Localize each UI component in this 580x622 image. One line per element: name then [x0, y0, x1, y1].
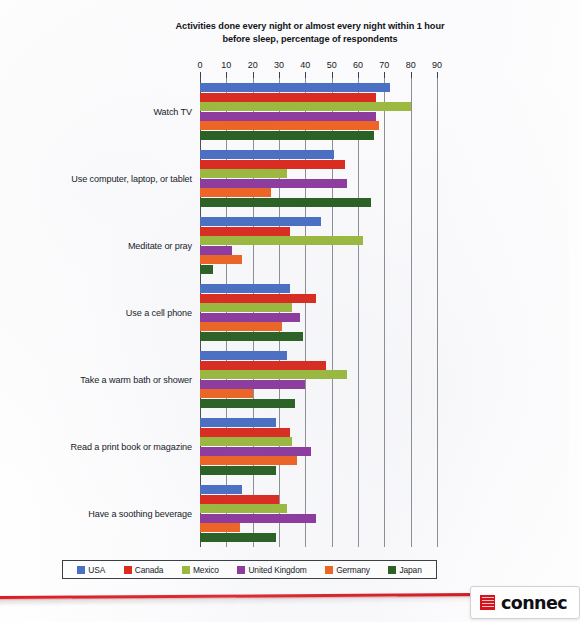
gridline-40 [305, 78, 306, 547]
bar [200, 313, 300, 322]
gridline-50 [332, 78, 333, 547]
gridline-80 [411, 78, 412, 547]
legend-swatch-icon [124, 566, 132, 574]
legend-item-japan[interactable]: Japan [388, 565, 421, 575]
bar [200, 255, 242, 264]
bar [200, 466, 276, 475]
bar [200, 332, 303, 341]
bar [200, 389, 253, 398]
x-tick-label-30: 30 [274, 60, 284, 70]
bar [200, 303, 292, 312]
x-tick-label-90: 90 [432, 60, 442, 70]
category-axis-labels: Watch TVUse computer, laptop, or tabletM… [10, 78, 200, 547]
bar [200, 523, 240, 532]
connect-logo-card[interactable]: connec [470, 586, 580, 619]
bar [200, 428, 290, 437]
chart-container: 0102030405060708090 Watch TVUse computer… [0, 0, 569, 560]
legend-label: Germany [336, 565, 370, 575]
logo-mark-lines [482, 597, 494, 609]
bar [200, 533, 276, 542]
legend-item-canada[interactable]: Canada [124, 565, 164, 575]
bar [200, 495, 279, 504]
legend-item-usa[interactable]: USA [77, 565, 105, 575]
legend-swatch-icon [182, 566, 190, 574]
bar [200, 169, 287, 178]
x-tick-label-70: 70 [379, 60, 389, 70]
bar [200, 447, 311, 456]
x-tick-label-0: 0 [197, 60, 202, 70]
category-label-0: Watch TV [20, 107, 200, 117]
legend-label: Japan [399, 565, 421, 575]
legend-swatch-icon [77, 566, 85, 574]
legend-item-mexico[interactable]: Mexico [182, 565, 219, 575]
category-label-5: Read a print book or magazine [20, 442, 200, 452]
bar [200, 236, 363, 245]
category-label-6: Have a soothing beverage [20, 509, 200, 519]
category-label-1: Use computer, laptop, or tablet [20, 174, 200, 184]
legend-label: USA [88, 565, 105, 575]
x-tick-label-50: 50 [327, 60, 337, 70]
category-label-4: Take a warm bath or shower [20, 375, 200, 385]
gridline-90 [437, 78, 438, 547]
x-tick-label-10: 10 [221, 60, 231, 70]
gridline-70 [384, 78, 385, 547]
legend-swatch-icon [237, 566, 245, 574]
legend-swatch-icon [388, 566, 396, 574]
x-tick-label-80: 80 [406, 60, 416, 70]
bar [200, 294, 316, 303]
bar [200, 121, 379, 130]
bar [200, 93, 376, 102]
bar [200, 246, 232, 255]
x-tick-label-20: 20 [248, 60, 258, 70]
legend-label: Mexico [193, 565, 219, 575]
bar [200, 217, 321, 226]
bar [200, 380, 305, 389]
legend-swatch-icon [325, 566, 333, 574]
bar [200, 514, 316, 523]
legend-label: United Kingdom [248, 565, 306, 575]
bar [200, 131, 374, 140]
category-label-2: Meditate or pray [20, 241, 200, 251]
x-tick-label-40: 40 [300, 60, 310, 70]
bar [200, 351, 287, 360]
bar [200, 112, 376, 121]
bar [200, 418, 276, 427]
plot-area [200, 78, 437, 547]
bar [200, 227, 290, 236]
bar [200, 160, 345, 169]
legend-item-germany[interactable]: Germany [325, 565, 370, 575]
bar [200, 284, 290, 293]
bar [200, 150, 334, 159]
bar [200, 437, 292, 446]
bar [200, 322, 282, 331]
bar [200, 504, 287, 513]
legend-item-united-kingdom[interactable]: United Kingdom [237, 565, 306, 575]
logo-wordmark: connec [501, 593, 567, 613]
bar [200, 370, 347, 379]
bar [200, 361, 326, 370]
bar [200, 265, 213, 274]
chart-legend: USACanadaMexicoUnited KingdomGermanyJapa… [62, 560, 437, 579]
x-tick-label-60: 60 [353, 60, 363, 70]
category-label-3: Use a cell phone [20, 308, 200, 318]
bar [200, 456, 297, 465]
bar [200, 485, 242, 494]
bar [200, 179, 347, 188]
bar [200, 188, 271, 197]
bar [200, 399, 295, 408]
legend-label: Canada [135, 565, 164, 575]
red-square-mark-icon [480, 595, 495, 610]
bar [200, 102, 411, 111]
bar [200, 83, 390, 92]
bar [200, 198, 371, 207]
gridline-60 [358, 78, 359, 547]
